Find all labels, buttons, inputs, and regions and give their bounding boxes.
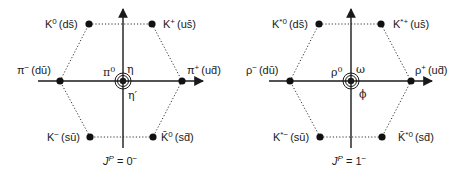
center-label-lower-right: η′	[128, 89, 138, 102]
center-label-left: π0	[103, 65, 115, 79]
node-dot-top-right	[377, 20, 384, 27]
node-dot-bottom-right	[149, 133, 156, 140]
node-dot-bottom-left	[86, 133, 93, 140]
label-bottom-right: K̄0(sd̄)	[161, 130, 194, 143]
center-label-lower-right: ϕ	[359, 88, 367, 101]
meson-octet-diagrams: K0(ds̄) K+(us̄) π−(dū) π+(ud̄) K−(sū) K̄…	[0, 0, 458, 174]
center-label-upper-right: ω	[356, 63, 365, 76]
node-dot-mid-right	[407, 77, 414, 84]
label-mid-right: ρ+(ud̄)	[415, 63, 448, 76]
pseudoscalar-meson-diagram: K0(ds̄) K+(us̄) π−(dū) π+(ud̄) K−(sū) K̄…	[17, 9, 221, 167]
node-dot-mid-right	[178, 77, 185, 84]
label-top-left: K*0(ds̄)	[272, 17, 308, 30]
node-dot-bottom-left	[316, 133, 323, 140]
node-dot-top-right	[148, 20, 155, 27]
center-label-left: ρ0	[331, 65, 343, 79]
label-mid-right: π+(ud̄)	[187, 63, 221, 76]
node-dot-top-left	[315, 20, 322, 27]
node-dot-top-left	[85, 20, 92, 27]
label-mid-left: ρ−(dū)	[246, 63, 279, 76]
label-bottom-left: K−(sū)	[47, 130, 80, 143]
caption-jp: JP = 0−	[102, 154, 138, 167]
label-top-right: K*+(us̄)	[393, 17, 429, 30]
label-mid-left: π−(dū)	[17, 63, 51, 76]
node-dot-mid-left	[56, 77, 63, 84]
vector-meson-diagram: K*0(ds̄) K*+(us̄) ρ−(dū) ρ+(ud̄) K*−(sū)…	[246, 9, 448, 167]
caption-jp: JP = 1−	[331, 154, 367, 167]
center-label-upper-right: η	[127, 63, 134, 76]
label-top-right: K+(us̄)	[163, 17, 196, 30]
node-dot-bottom-right	[378, 133, 385, 140]
node-dot-mid-left	[286, 77, 293, 84]
label-bottom-right: K̄*0(sd̄)	[398, 130, 434, 143]
label-bottom-left: K*−(sū)	[273, 130, 309, 143]
label-top-left: K0(ds̄)	[45, 17, 78, 30]
